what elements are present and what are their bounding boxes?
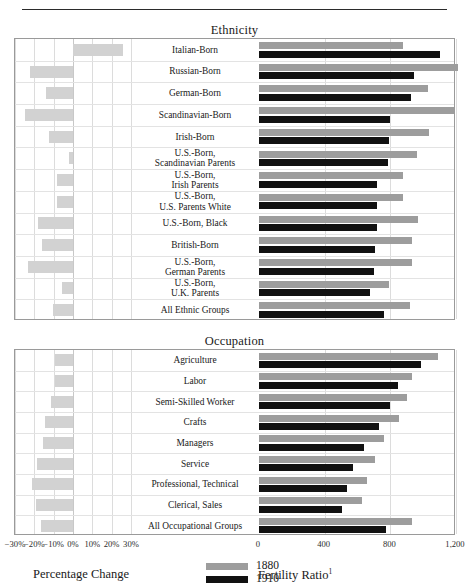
row-separator (131, 515, 259, 516)
row-separator (259, 474, 454, 475)
row-separator (259, 453, 454, 454)
row-separator (131, 104, 259, 105)
percentage-change-bar (36, 499, 73, 511)
row-separator (259, 391, 454, 392)
fertility-bar-1910 (259, 181, 377, 188)
category-label: All Occupational Groups (131, 521, 259, 531)
gridline-0 (73, 350, 74, 534)
fertility-bar-1880 (259, 64, 458, 71)
category-label: Irish-Born (131, 132, 259, 142)
top-rule (22, 9, 447, 10)
fertility-bar-1880 (259, 302, 410, 309)
fertility-bar-1910 (259, 382, 398, 389)
fertility-bar-1880 (259, 373, 412, 380)
category-label: All Ethnic Groups (131, 305, 259, 315)
row-separator (259, 104, 454, 105)
fertility-bar-1880 (259, 237, 412, 244)
category-label: Service (131, 459, 259, 469)
row-separator (15, 213, 131, 214)
fertility-bar-1880 (259, 129, 429, 136)
row-separator (259, 82, 454, 83)
row-separator (15, 371, 131, 372)
fertility-ratio-pane (259, 350, 454, 534)
row-separator (259, 371, 454, 372)
row-separator (131, 412, 259, 413)
row-separator (15, 278, 131, 279)
row-separator (15, 191, 131, 192)
row-separator (15, 433, 131, 434)
row-separator (131, 433, 259, 434)
panel-title: Ethnicity (0, 22, 469, 38)
fertility-bar-1910 (259, 402, 390, 409)
plot-area: Italian-BornRussian-BornGerman-BornScand… (14, 38, 455, 320)
xtick-pct-0: 0% (67, 539, 78, 549)
percentage-change-bar (53, 304, 73, 316)
category-label: U.S.-Born,U.S. Parents White (131, 191, 259, 211)
gridline-1200 (456, 39, 457, 319)
axis-tick-row: −30%−20%−10%0%10%20%30%04008001,200 (14, 539, 455, 552)
row-separator (15, 515, 131, 516)
percentage-change-bar (55, 354, 73, 366)
row-separator (15, 495, 131, 496)
fertility-bar-1880 (259, 194, 403, 201)
fertility-bar-1880 (259, 85, 428, 92)
fertility-bar-1880 (259, 107, 454, 114)
row-separator (259, 495, 454, 496)
row-separator (259, 433, 454, 434)
category-label: U.S.-Born,German Parents (131, 257, 259, 277)
row-separator (131, 474, 259, 475)
xtick-pct--20: −20% (24, 539, 45, 549)
row-separator (15, 61, 131, 62)
row-separator (15, 169, 131, 170)
category-label-pane: Italian-BornRussian-BornGerman-BornScand… (131, 39, 259, 319)
category-label: U.S.-Born,Irish Parents (131, 170, 259, 190)
category-label: U.S.-Born,Scandinavian Parents (131, 148, 259, 168)
plot-area: AgricultureLaborSemi-Skilled WorkerCraft… (14, 349, 455, 535)
fertility-bar-1910 (259, 464, 353, 471)
fertility-bar-1880 (259, 172, 403, 179)
fertility-bar-1910 (259, 224, 377, 231)
fertility-bar-1880 (259, 518, 412, 525)
percentage-change-bar (62, 282, 73, 294)
xtick-pct-10: 10% (84, 539, 100, 549)
panel-title: Occupation (0, 333, 469, 349)
row-separator (15, 82, 131, 83)
fertility-bar-1910 (259, 423, 379, 430)
fertility-bar-1910 (259, 116, 390, 123)
fertility-bar-1910 (259, 246, 375, 253)
row-separator (259, 147, 454, 148)
percentage-change-bar (57, 174, 73, 186)
percentage-change-bar (30, 66, 73, 78)
row-separator (15, 126, 131, 127)
row-separator (259, 234, 454, 235)
category-label: Russian-Born (131, 66, 259, 76)
category-label: Professional, Technical (131, 479, 259, 489)
percentage-change-bar (37, 458, 73, 470)
percentage-change-bar (49, 131, 73, 143)
xtick-pct--10: −10% (43, 539, 64, 549)
fertility-bar-1880 (259, 477, 367, 484)
fertility-bar-1880 (259, 435, 384, 442)
fertility-bar-1880 (259, 394, 407, 401)
percentage-change-bar (46, 87, 73, 99)
fertility-bar-1910 (259, 289, 370, 296)
category-label: Labor (131, 376, 259, 386)
percentage-change-bar (57, 196, 73, 208)
row-separator (15, 147, 131, 148)
percentage-change-bar (43, 437, 73, 449)
category-label: German-Born (131, 88, 259, 98)
fertility-bar-1880 (259, 151, 417, 158)
xtick-fertility-800: 800 (383, 539, 396, 549)
row-separator (259, 299, 454, 300)
row-separator (15, 412, 131, 413)
fertility-bar-1910 (259, 526, 386, 533)
fertility-bar-1880 (259, 42, 403, 49)
percentage-change-bar (73, 44, 123, 56)
percentage-change-bar (69, 152, 73, 164)
row-separator (15, 453, 131, 454)
category-label: Scandinavian-Born (131, 110, 259, 120)
caption-fertility-ratio: Fertility Ratio1 (258, 567, 332, 583)
fertility-bar-1910 (259, 444, 364, 451)
row-separator (131, 126, 259, 127)
category-label: Agriculture (131, 355, 259, 365)
